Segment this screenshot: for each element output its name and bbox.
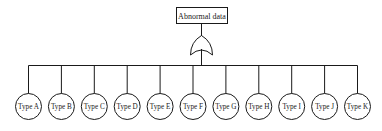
top-event-label: Abnormal data [178,12,226,21]
fault-tree-diagram: Abnormal data Type A Type B Type C [0,0,382,131]
basic-event-type-j: Type J [312,66,338,120]
basic-event-label: Type I [282,103,301,111]
basic-event-type-i: Type I [279,66,305,120]
basic-event-label: Type C [84,103,105,111]
basic-event-type-b: Type B [48,66,74,120]
basic-event-label: Type E [150,103,171,111]
basic-event-type-e: Type E [147,66,173,120]
basic-event-type-k: Type K [345,66,371,120]
basic-event-label: Type J [315,103,334,111]
basic-event-label: Type F [183,103,203,111]
basic-event-type-g: Type G [213,66,239,120]
basic-event-label: Type H [248,103,269,111]
basic-event-label: Type K [347,103,369,111]
top-event: Abnormal data [177,8,228,24]
basic-event-type-h: Type H [246,66,272,120]
basic-event-label: Type A [18,103,40,111]
basic-event-label: Type G [215,103,236,111]
basic-event-label: Type D [117,103,138,111]
basic-event-type-d: Type D [114,66,140,120]
basic-event-type-c: Type C [81,66,107,120]
fault-tree-canvas: Abnormal data Type A Type B Type C [0,0,382,131]
basic-event-type-f: Type F [180,66,206,120]
basic-event-label: Type B [51,103,72,111]
basic-event-type-a: Type A [16,66,42,120]
